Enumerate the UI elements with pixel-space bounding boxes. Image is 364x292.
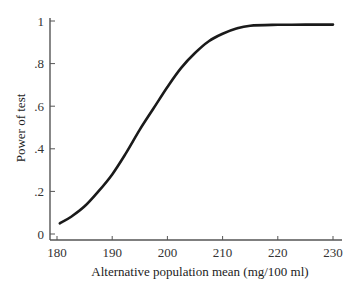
x-tick-label: 220 [268, 245, 288, 260]
x-tick-label: 190 [102, 245, 122, 260]
y-axis-title: Power of test [13, 93, 28, 162]
power-curve-line [60, 25, 333, 224]
y-tick-label: 1 [38, 14, 45, 29]
x-tick-label: 200 [158, 245, 178, 260]
x-tick-label: 180 [47, 245, 67, 260]
y-tick-label: .4 [34, 141, 44, 156]
x-tick-label: 230 [323, 245, 343, 260]
y-tick-label: .8 [34, 56, 44, 71]
y-tick-label: 0 [38, 227, 45, 242]
x-tick-label: 210 [213, 245, 233, 260]
y-tick-label: .2 [34, 184, 44, 199]
x-axis-title: Alternative population mean (mg/100 ml) [91, 264, 308, 279]
y-ticks: 0.2.4.6.81 [34, 14, 55, 242]
power-curve-chart: 180190200210220230 0.2.4.6.81 Alternativ… [0, 0, 364, 292]
y-tick-label: .6 [34, 99, 44, 114]
